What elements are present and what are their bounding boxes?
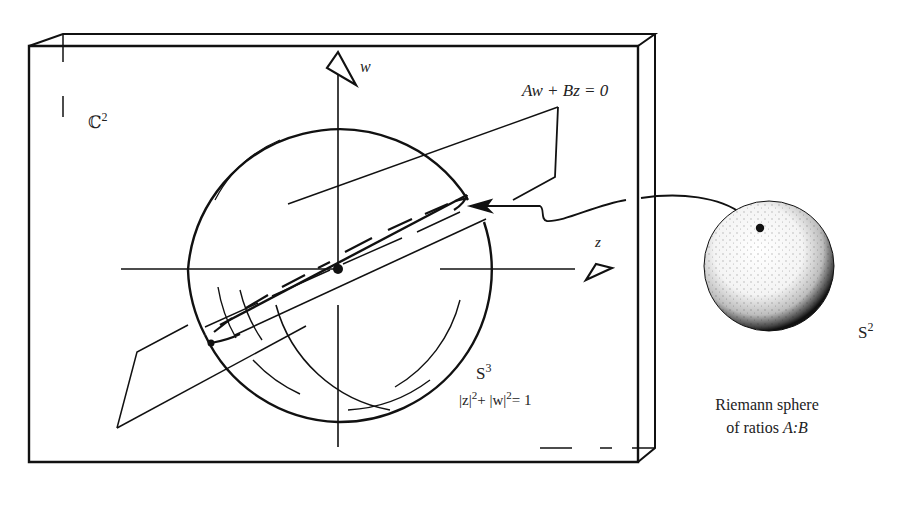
mapping-arrow xyxy=(470,196,747,221)
z-axis-label: z xyxy=(594,234,601,250)
point-on-sphere xyxy=(756,224,764,232)
plane-equation-label: Aw + Bz = 0 xyxy=(521,81,609,100)
s3-label: S3 xyxy=(476,361,491,383)
diagram-canvas: ℂ2 w z xyxy=(0,0,903,521)
riemann-caption-line2: of ratios A:B xyxy=(726,419,808,436)
s3-sphere xyxy=(188,129,492,422)
s2-label: S2 xyxy=(858,320,873,342)
riemann-sphere xyxy=(704,201,834,331)
axes xyxy=(121,52,612,447)
riemann-caption-line1: Riemann sphere xyxy=(715,396,819,414)
w-axis-label: w xyxy=(360,58,371,75)
c2-label: ℂ2 xyxy=(88,110,108,132)
z-arrow-icon xyxy=(586,264,612,280)
w-arrow-icon xyxy=(327,52,356,85)
s3-equation: |z|2+ |w|2= 1 xyxy=(459,389,531,408)
